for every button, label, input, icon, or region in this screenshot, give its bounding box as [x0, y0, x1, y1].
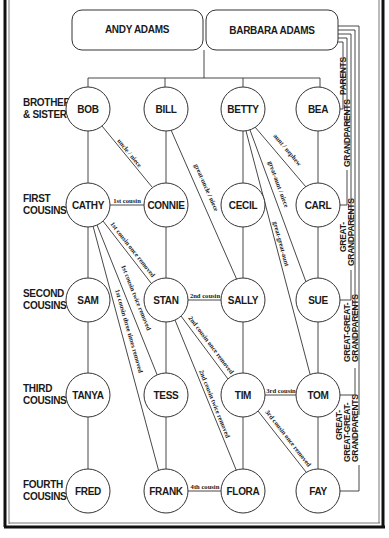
node-frank: FRANK: [144, 469, 188, 513]
bracket-label-parents: PARENTS: [338, 56, 348, 95]
svg-text:BEA: BEA: [308, 104, 328, 115]
svg-text:BETTY: BETTY: [227, 104, 259, 115]
node-flora: FLORA: [221, 469, 265, 513]
svg-text:TANYA: TANYA: [72, 390, 103, 401]
node-sam: SAM: [66, 278, 110, 322]
label-2nd-cousin: 2nd cousin: [190, 292, 221, 299]
relationship-labels: uncle / niece great-uncle / niece aunt /…: [109, 132, 313, 490]
node-bill: BILL: [144, 87, 188, 131]
node-bea: BEA: [296, 87, 340, 131]
svg-text:TOM: TOM: [307, 390, 328, 401]
node-cathy: CATHY: [66, 183, 110, 227]
node-cecil: CECIL: [221, 183, 265, 227]
row-label-second-2: COUSINS: [23, 300, 67, 311]
svg-text:FLORA: FLORA: [227, 486, 260, 497]
node-sally: SALLY: [221, 278, 265, 322]
row-label-second-1: SECOND: [23, 288, 64, 299]
node-tim: TIM: [221, 373, 265, 417]
label-great-uncle-niece: great-uncle / niece: [193, 163, 220, 213]
svg-text:FRANK: FRANK: [149, 486, 184, 497]
label-2nd-cousin-once-removed: 2nd cousin once removed: [187, 314, 235, 375]
node-connie: CONNIE: [144, 183, 188, 227]
label-1st-cousin-once-removed: 1st cousin once removed: [109, 220, 157, 278]
node-carl: CARL: [296, 183, 340, 227]
label-uncle-niece: uncle / niece: [116, 137, 143, 168]
svg-text:BILL: BILL: [155, 104, 176, 115]
node-tess: TESS: [144, 373, 188, 417]
svg-text:SAM: SAM: [77, 295, 98, 306]
mother-name: BARBARA ADAMS: [229, 25, 315, 36]
node-fay: FAY: [296, 469, 340, 513]
bracket-label-great-great-2: GRANDPARENTS: [350, 294, 360, 362]
chart-frame: [4, 0, 385, 528]
svg-text:SALLY: SALLY: [228, 295, 259, 306]
node-fred: FRED: [66, 469, 110, 513]
row-label-first-1: FIRST: [23, 193, 51, 204]
label-great-great-aunt: great-great-aunt: [272, 220, 291, 267]
svg-text:CARL: CARL: [305, 200, 332, 211]
node-sue: SUE: [296, 278, 340, 322]
node-tanya: TANYA: [66, 373, 110, 417]
bracket-label-grandparents: GRANDPARENTS: [342, 99, 352, 167]
bracket-label-ggg-3: GRANDPARENTS: [350, 394, 360, 462]
father-box: ANDY ADAMS: [72, 10, 203, 50]
father-name: ANDY ADAMS: [105, 24, 170, 35]
node-stan: STAN: [144, 278, 188, 322]
row-label-first-2: COUSINS: [23, 205, 67, 216]
node-betty: BETTY: [221, 87, 265, 131]
row-label-fourth-2: COUSINS: [23, 491, 67, 502]
node-bob: BOB: [66, 87, 110, 131]
svg-text:TESS: TESS: [154, 390, 180, 401]
family-relationship-chart: ANDY ADAMS BARBARA ADAMS: [0, 0, 389, 538]
mother-box: BARBARA ADAMS: [206, 10, 338, 50]
svg-text:STAN: STAN: [153, 295, 178, 306]
sibling-connector: [88, 50, 320, 87]
label-3rd-cousin-once-removed: 3rd cousin once removed: [264, 408, 313, 468]
row-label-third-2: COUSINS: [23, 395, 67, 406]
label-1st-cousin: 1st cousin: [113, 197, 141, 204]
bracket-label-great-2: GRANDPARENTS: [346, 198, 356, 266]
svg-text:TIM: TIM: [235, 390, 251, 401]
row-label-fourth-1: FOURTH: [23, 479, 63, 490]
svg-text:CECIL: CECIL: [229, 200, 258, 211]
label-3rd-cousin: 3rd cousin: [266, 387, 296, 394]
label-great-aunt-niece: great-aunt / niece: [267, 160, 290, 208]
svg-text:FAY: FAY: [309, 486, 327, 497]
svg-text:BOB: BOB: [77, 104, 98, 115]
row-label-third-1: THIRD: [23, 383, 52, 394]
svg-text:CONNIE: CONNIE: [147, 200, 185, 211]
svg-text:SUE: SUE: [308, 295, 328, 306]
svg-text:FRED: FRED: [75, 486, 101, 497]
label-4th-cousin: 4th cousin: [191, 483, 220, 490]
label-aunt-nephew: aunt / nephew: [272, 132, 303, 167]
svg-text:CATHY: CATHY: [72, 200, 105, 211]
